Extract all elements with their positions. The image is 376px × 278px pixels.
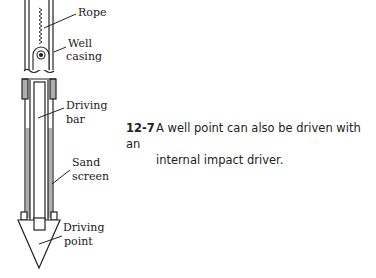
label-driving-point-1: Driving — [63, 221, 104, 234]
label-well-casing-1: Well — [68, 37, 92, 50]
figure-number: 12-7 — [126, 120, 156, 136]
caption-line-1: A well point can also be driven with an — [126, 121, 361, 151]
figure-caption: 12-7A well point can also be driven with… — [126, 120, 376, 168]
pulley-icon — [33, 47, 49, 70]
label-sand-screen-2: screen — [72, 170, 109, 183]
label-rope: Rope — [78, 6, 106, 19]
caption-line-2: internal impact driver. — [126, 152, 376, 168]
label-well-casing-2: casing — [66, 50, 102, 63]
rope-icon — [39, 8, 42, 44]
label-sand-screen-1: Sand — [72, 156, 100, 169]
label-driving-bar-2: bar — [66, 113, 86, 126]
driving-pipe — [21, 79, 57, 230]
label-driving-point-2: point — [64, 235, 93, 248]
label-driving-bar-1: Driving — [66, 99, 107, 112]
